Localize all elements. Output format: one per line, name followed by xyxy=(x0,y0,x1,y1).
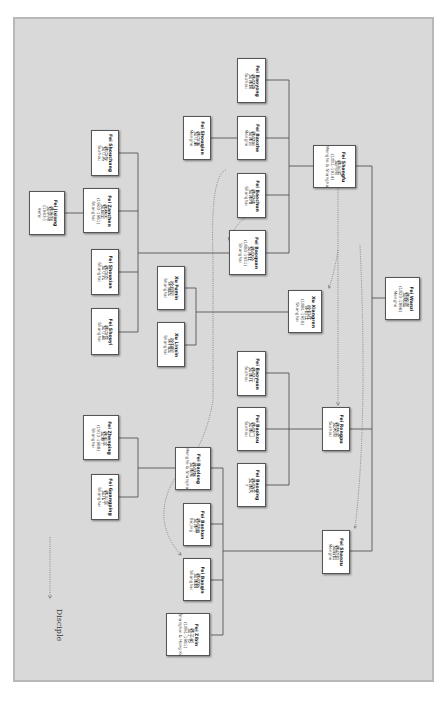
person-years: (1891-1981) xyxy=(182,613,187,656)
person-place: Shanghai xyxy=(237,230,242,275)
person-place: Shanghai xyxy=(189,558,194,601)
person-name: Xu Fumin xyxy=(174,266,179,310)
person-place: Menghe xyxy=(189,116,194,160)
person-place: Menghe xyxy=(243,116,248,160)
person-name: Xu Xiangren xyxy=(310,290,315,333)
connector-lines xyxy=(0,0,444,710)
person-box-rongpu: Fei Rongpu费荣甫Suzhou xyxy=(322,407,350,451)
person-chinese-name: 费保哲 xyxy=(248,116,254,160)
person-box-shangfu: Fei Shangfu费尚甫(1851-1914)Menghe & Shangh… xyxy=(313,145,356,188)
person-box-baolong: Fei Baolong费保隆Menghe & Shanghai xyxy=(175,447,211,490)
person-chinese-name: 费季翔 xyxy=(46,191,52,235)
person-years: (1881-1959) xyxy=(299,290,304,333)
person-place: Shanghai xyxy=(90,415,95,460)
person-chinese-name: 费尚甫 xyxy=(334,145,340,188)
person-box-baoyong: Fei Baoyong费保镛Suzhou xyxy=(237,58,266,103)
person-chinese-name: 费振平 xyxy=(100,415,106,460)
person-place: Hefei xyxy=(36,191,41,235)
person-place: Shanghai xyxy=(294,290,299,333)
person-chinese-name: 费保隆 xyxy=(190,447,196,490)
person-chinese-name: 费守意 xyxy=(102,308,108,355)
person-box-fumin: Xu Fumin徐福民Shanghai xyxy=(157,266,185,310)
person-name: Fei Rongpu xyxy=(339,407,344,451)
person-place: Shanghai xyxy=(97,249,102,295)
person-label: Fei Zanchen费赞臣(1903-1981)Shanghai xyxy=(90,188,111,233)
person-label: Fei Shangfu费尚甫(1851-1914)Menghe & Shangh… xyxy=(324,145,345,188)
person-chinese-name: 费保庆 xyxy=(248,463,254,507)
person-place: ? xyxy=(243,463,248,507)
person-name: Fei Zhenping xyxy=(106,415,111,460)
person-box-xiangren: Xu Xiangren徐相任(1881-1959)Shanghai xyxy=(288,290,322,333)
person-box-baoyuan: Fei Baoyuan费保元Suzhou xyxy=(237,351,266,396)
person-place: Menghe & Shanghai xyxy=(324,145,329,188)
person-years: (1851-1914) xyxy=(329,145,334,188)
person-place: Shanghai xyxy=(97,474,102,520)
person-label: Fei Zhenping费振平(1913-1988)Shanghai xyxy=(90,415,111,460)
person-label: Fei Baoyong费保镛Suzhou xyxy=(243,58,259,103)
person-label: Fei Shouyi费守意Shanghai xyxy=(97,308,113,355)
person-label: Fei Baolong费保隆Menghe & Shanghai xyxy=(185,447,201,490)
person-label: Fei Baoqin费保勤Shanghai xyxy=(189,558,205,601)
person-name: Fei Baoqin xyxy=(200,558,205,601)
person-label: Xu Xiangren徐相任(1881-1959)Shanghai xyxy=(294,290,315,333)
person-box-zibin: Fei Zibin费子彬(1891-1981)Shanghai & Hong K… xyxy=(166,613,210,656)
person-place: Menghe xyxy=(392,277,397,320)
person-box-jixiang: Fei Jixiang费季翔(1943-)Hefei xyxy=(29,191,65,235)
person-label: Fei Baoqing费保庆? xyxy=(243,463,259,507)
person-box-shaozu: Fei Shaozu费绍祖Menghe xyxy=(322,530,350,574)
person-box-guangping: Fei Guangping费光平Shanghai xyxy=(91,474,119,520)
person-box-shouyi: Fei Shouyi费守意Shanghai xyxy=(91,308,119,355)
person-label: Fei Jixiang费季翔(1943-)Hefei xyxy=(36,191,57,235)
person-years: (1903-1981) xyxy=(95,188,100,233)
person-chinese-name: 费守常 xyxy=(102,130,108,176)
person-name: Fei Guangping xyxy=(108,474,113,520)
person-place: Shanghai xyxy=(90,188,95,233)
person-place: Suzhou xyxy=(328,407,333,451)
person-label: Fei Baozhe费保哲Menghe xyxy=(243,116,259,160)
person-place: Menghe & Shanghai xyxy=(185,447,190,490)
person-name: Fei Jixiang xyxy=(52,191,57,235)
disciple-arrow xyxy=(355,245,363,528)
person-name: Fei Baolong xyxy=(196,447,201,490)
person-box-zhenping: Fei Zhenping费振平(1913-1988)Shanghai xyxy=(83,415,119,460)
person-years: (1943-) xyxy=(41,191,46,235)
person-label: Fei Baokou费保口Suzhou xyxy=(243,407,259,451)
person-chinese-name: 费保元 xyxy=(248,351,254,396)
person-chinese-name: 费绍祖 xyxy=(333,530,339,574)
person-chinese-name: 费保口 xyxy=(248,407,254,451)
person-name: Xu Linxin xyxy=(174,322,179,367)
person-label: Fei Zibin费子彬(1891-1981)Shanghai & Hong K… xyxy=(177,613,198,656)
person-box-zanchen: Fei Zanchen费赞臣(1903-1981)Shanghai xyxy=(83,188,119,233)
person-box-baozhe: Fei Baozhe费保哲Menghe xyxy=(237,116,266,160)
person-place: Shanghai & Hong Kong xyxy=(177,613,182,656)
person-chinese-name: 费保纯 xyxy=(248,173,254,218)
person-place: Menghe xyxy=(328,530,333,574)
person-name: Fei Shouqian xyxy=(200,116,205,160)
person-label: Fei Shaozu费绍祖Menghe xyxy=(328,530,344,574)
person-label: Fei Shouqian费守谦Menghe xyxy=(189,116,205,160)
person-chinese-name: 费守宪 xyxy=(102,249,108,295)
person-place: Suzhou xyxy=(243,407,248,451)
person-label: Fei Baochun费保纯Shanghai xyxy=(243,173,259,218)
person-chinese-name: 徐利民 xyxy=(168,322,174,367)
person-chinese-name: 费保坤 xyxy=(194,503,200,546)
legend-disciple-label: Disciple xyxy=(44,610,74,640)
person-box-baoquan: Fei Baoquan费保铨(1883-1931)Shanghai xyxy=(229,230,266,275)
person-chinese-name: 徐相任 xyxy=(304,290,310,333)
person-place: Suzhou xyxy=(97,130,102,176)
person-place: Shanghai xyxy=(97,308,102,355)
person-place: Shanghai xyxy=(163,266,168,310)
person-label: Fei Shouxian费守宪Shanghai xyxy=(97,249,113,295)
person-name: Fei Shouyi xyxy=(108,308,113,355)
person-label: Fei Baoquan费保铨(1883-1931)Shanghai xyxy=(237,230,258,275)
person-chinese-name: 费子彬 xyxy=(187,613,193,656)
person-name: Fei Zanchen xyxy=(106,188,111,233)
person-chinese-name: 费保铨 xyxy=(247,230,253,275)
disciple-arrow xyxy=(329,250,338,288)
person-chinese-name: 费守谦 xyxy=(194,116,200,160)
person-place: Shanghai xyxy=(163,322,168,367)
person-label: Fei Guangping费光平Shanghai xyxy=(97,474,113,520)
person-label: Fei Shouchang费守常Suzhou xyxy=(97,130,113,176)
person-box-shouchang: Fei Shouchang费守常Suzhou xyxy=(91,130,119,176)
person-name: Fei Shaozu xyxy=(339,530,344,574)
